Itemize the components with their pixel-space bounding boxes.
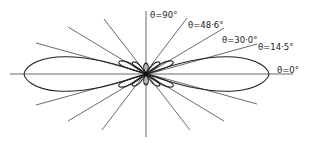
label-14-5deg: θ=14·5°: [258, 42, 294, 52]
label-90deg: θ=90°: [150, 10, 177, 20]
label-30deg: θ=30·0°: [222, 35, 258, 45]
radiation-pattern-diagram: θ=90° θ=48·6° θ=30·0° θ=14·5° θ=0°: [0, 0, 310, 143]
label-0deg: θ=0°: [277, 65, 299, 75]
angle-rays: [10, 11, 293, 137]
center-point: [144, 72, 148, 76]
label-48-6deg: θ=48·6°: [188, 20, 224, 30]
